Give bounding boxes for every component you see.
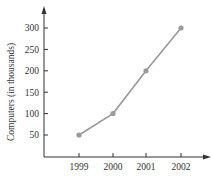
- y-ticks: 50100150200250300: [25, 23, 48, 140]
- x-axis-arrow-icon: [203, 155, 211, 160]
- y-tick-label: 150: [25, 88, 40, 98]
- x-ticks: 1999200020012002: [70, 153, 191, 172]
- data-point-marker: [110, 111, 115, 116]
- data-point-marker: [143, 68, 148, 73]
- x-axis: [44, 155, 211, 160]
- data-point-marker: [178, 25, 183, 30]
- x-tick-label: 1999: [70, 162, 89, 172]
- y-tick-label: 200: [25, 66, 40, 76]
- x-tick-label: 2001: [137, 162, 156, 172]
- y-axis: [42, 6, 47, 157]
- series-line: [79, 28, 181, 135]
- series-computers: [76, 25, 183, 137]
- y-axis-title: Computers (in thousands): [6, 43, 17, 141]
- y-axis-arrow-icon: [42, 6, 47, 14]
- y-tick-label: 100: [25, 109, 40, 119]
- x-tick-label: 2000: [104, 162, 123, 172]
- x-tick-label: 2002: [172, 162, 191, 172]
- line-chart: 50100150200250300 1999200020012002 Compu…: [0, 0, 212, 181]
- y-tick-label: 250: [25, 45, 40, 55]
- data-point-marker: [76, 132, 81, 137]
- y-tick-label: 50: [30, 130, 40, 140]
- y-tick-label: 300: [25, 23, 40, 33]
